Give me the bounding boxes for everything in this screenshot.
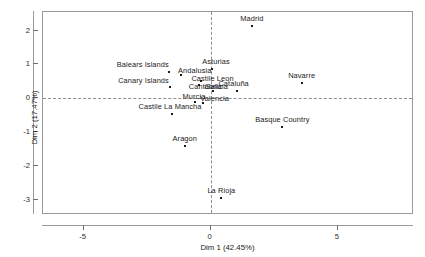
y-axis-label: Dim 2 (17.47%) <box>30 43 39 193</box>
data-point <box>220 197 222 199</box>
x-tick-mark <box>210 225 211 230</box>
factor-map-scatter-chart: MadridBalears IslandsAsturiasAndalusiaCa… <box>0 0 425 257</box>
data-point <box>169 86 171 88</box>
data-point <box>251 25 253 27</box>
data-point-label: Navarre <box>288 72 315 79</box>
data-point-label: Basque Country <box>255 115 309 122</box>
y-tick-label: -1 <box>14 127 30 136</box>
plot-frame: MadridBalears IslandsAsturiasAndalusiaCa… <box>42 11 413 214</box>
y-tick-label: 1 <box>14 59 30 68</box>
y-tick-mark <box>33 199 38 200</box>
data-point <box>236 90 238 92</box>
y-tick-label: -3 <box>14 194 30 203</box>
data-point-label: Andalusia <box>178 66 211 73</box>
data-point-label: La Rioja <box>207 187 235 194</box>
data-point-label: Asturias <box>202 58 230 65</box>
data-point <box>281 126 283 128</box>
y-tick-mark <box>33 30 38 31</box>
data-point <box>168 71 170 73</box>
x-tick-mark <box>337 225 338 230</box>
plot-area: MadridBalears IslandsAsturiasAndalusiaCa… <box>43 12 412 213</box>
data-point-label: Cataluña <box>218 79 248 86</box>
y-tick-label: 0 <box>14 93 30 102</box>
data-point-label: Valencia <box>200 95 229 102</box>
data-point-label: Castile La Mancha <box>139 102 202 109</box>
data-point-label: Cantabria <box>189 82 222 89</box>
data-point-label: Balears Islands <box>117 60 169 67</box>
x-tick-mark <box>83 225 84 230</box>
x-axis-line <box>42 225 413 226</box>
y-tick-label: 2 <box>14 25 30 34</box>
x-tick-label: -5 <box>79 232 86 241</box>
data-point-label: Madrid <box>240 15 263 22</box>
vertical-reference-line <box>211 12 212 213</box>
x-axis-label: Dim 1 (42.45%) <box>42 243 413 252</box>
data-point <box>171 113 173 115</box>
data-point <box>184 145 186 147</box>
y-tick-label: -2 <box>14 160 30 169</box>
x-tick-label: 0 <box>208 232 212 241</box>
data-point-label: Aragon <box>173 134 197 141</box>
data-point <box>301 82 303 84</box>
x-tick-label: 5 <box>335 232 339 241</box>
data-point-label: Canary Islands <box>118 77 169 84</box>
